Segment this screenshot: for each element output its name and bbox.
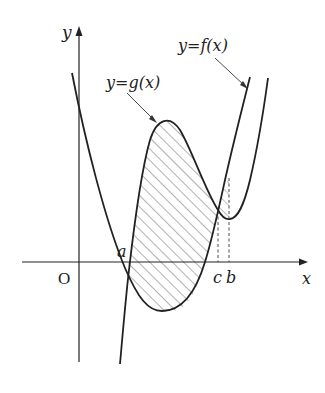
y-axis-label: y: [61, 22, 72, 42]
origin-label: O: [58, 269, 70, 288]
x-axis-label: x: [302, 269, 311, 288]
y-axis-arrow-icon: [76, 26, 83, 36]
g-label-leader: [127, 93, 157, 123]
shaded-region: [100, 100, 240, 330]
x-axis-arrow-icon: [299, 259, 308, 266]
g-function-label: y=g(x): [105, 73, 160, 92]
function-graph: y x O y=f(x) y=g(x) a c b: [0, 0, 325, 393]
y-axis: [76, 26, 83, 362]
point-b-label: b: [226, 268, 236, 287]
f-function-label: y=f(x): [177, 36, 228, 55]
point-c-label: c: [213, 268, 222, 287]
point-a-label: a: [117, 242, 127, 261]
f-label-leader: [215, 58, 248, 89]
